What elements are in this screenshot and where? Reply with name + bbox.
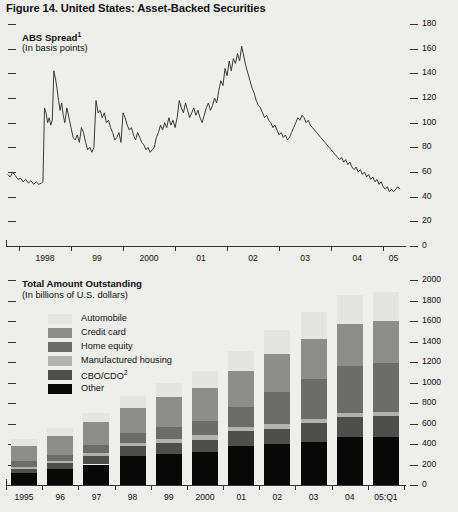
bar-segment [301,312,327,339]
stacked-bar [11,280,37,485]
bar-segment [337,413,363,417]
abs-spread-panel: ABS Spread1 (In basis points) 0204060801… [0,18,458,258]
stacked-bar [83,280,109,485]
bar-segment [264,424,290,428]
stacked-bar [120,280,146,485]
bar-segment [228,407,254,427]
bar-segment [337,295,363,324]
bar-segment [156,443,182,454]
stacked-bar [228,280,254,485]
bar-segment [11,439,37,445]
bar-segment [301,339,327,379]
bar-segment [373,412,399,416]
stacked-bar [192,280,218,485]
bar-segment [264,444,290,485]
bar-segment [337,417,363,438]
bar-segment [120,443,146,446]
bar-segment [11,473,37,485]
bar-segment [156,427,182,439]
bar-segment [47,463,73,469]
bar-segment [228,446,254,485]
bar-segment [373,292,399,322]
bar-segment [192,421,218,436]
bar-segment [47,428,73,436]
bar-segment [83,413,109,422]
bar-segment [83,465,109,486]
total-outstanding-panel: Total Amount Outstanding (In billions of… [0,266,458,512]
bar-segment [228,351,254,371]
bar-segment [83,422,109,445]
bar-segment [11,461,37,467]
stacked-bar [47,280,73,485]
stacked-bar [301,280,327,485]
bar-segment [192,371,218,388]
abs-spread-line [8,46,400,192]
bar-segment [228,427,254,431]
bar-segment [337,437,363,485]
bar-segment [264,330,290,354]
bar-segment [301,423,327,442]
bar-segment [11,467,37,469]
bar-segment [228,371,254,407]
bar-segment [11,469,37,473]
bar-segment [337,324,363,366]
bar-segment [120,433,146,442]
bar-segment [373,437,399,485]
bar-segment [47,469,73,485]
abs-spread-line-plot [0,18,458,258]
bar-segment [373,363,399,412]
bar-segment [156,454,182,485]
bar-segment [120,456,146,485]
bar-segment [264,429,290,444]
bar-segment [192,452,218,485]
bar-segment [120,396,146,407]
bar-segment [373,416,399,437]
stacked-bar [337,280,363,485]
figure-container: Figure 14. United States: Asset-Backed S… [0,0,458,512]
bar-segment [47,461,73,463]
bar-segment [47,455,73,462]
bar-segment [120,446,146,456]
stacked-bar [264,280,290,485]
bar-segment [47,436,73,455]
bar-segment [156,397,182,427]
bar-segment [83,445,109,453]
bar-segment [228,431,254,445]
bar-segment [264,392,290,425]
bar-segment [156,439,182,443]
bar-segment [192,388,218,421]
stacked-bar [373,280,399,485]
bar-segment [301,442,327,485]
bar-segment [192,440,218,453]
bar-segment [373,321,399,363]
bar-segment [301,379,327,419]
bars-area [0,266,458,512]
bar-segment [11,446,37,462]
bar-segment [264,354,290,392]
bar-segment [156,383,182,397]
bar-segment [83,453,109,456]
stacked-bar [156,280,182,485]
bar-segment [192,435,218,439]
bar-segment [301,419,327,423]
bar-segment [120,408,146,434]
page-title: Figure 14. United States: Asset-Backed S… [6,2,266,14]
bar-segment [337,366,363,413]
bar-segment [83,456,109,464]
